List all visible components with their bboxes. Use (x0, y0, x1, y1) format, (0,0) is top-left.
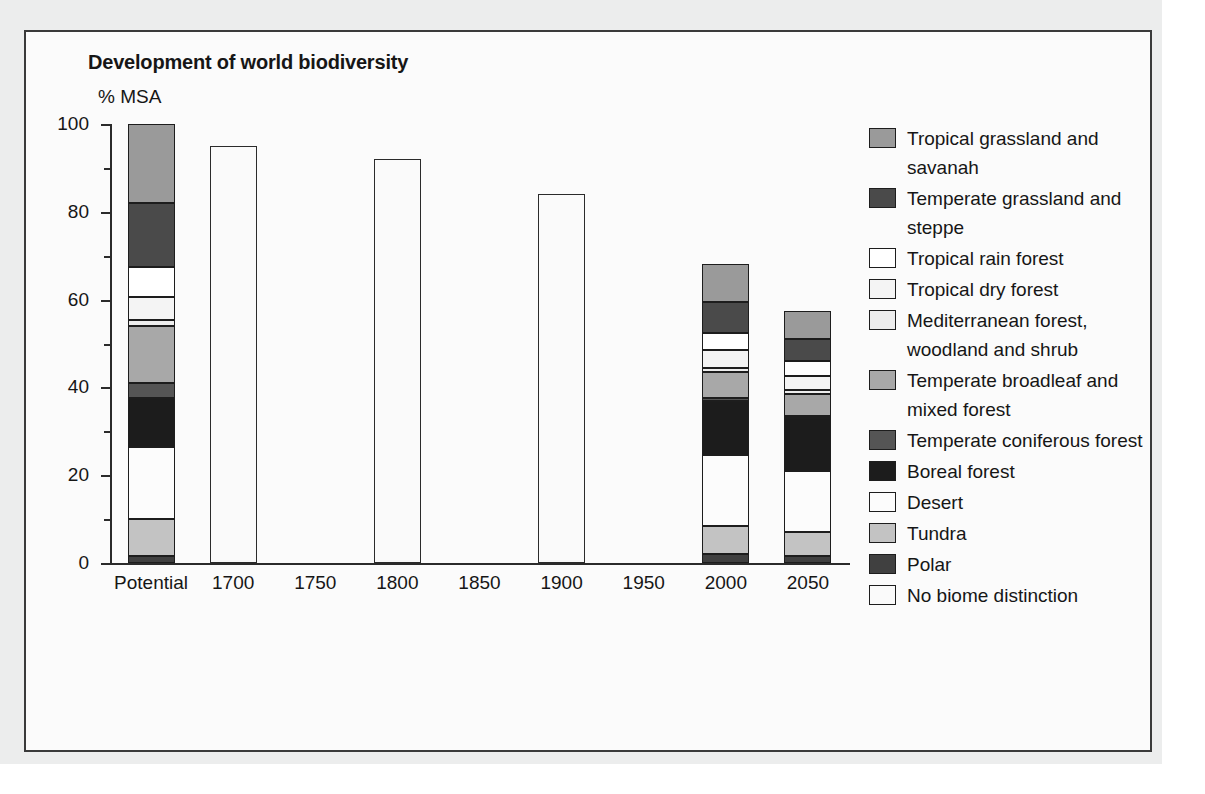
bar-segment (702, 455, 749, 525)
legend-label: Desert (907, 488, 963, 517)
bar-segment (128, 320, 175, 326)
bar-segment (128, 556, 175, 563)
bar-segment (784, 394, 831, 416)
bar-1800 (374, 159, 421, 563)
legend-label: Boreal forest (907, 457, 1015, 486)
y-tick-label: 60 (68, 289, 89, 311)
bar-segment (702, 333, 749, 351)
legend-swatch-icon (869, 492, 896, 512)
bar-1700 (210, 146, 257, 563)
bar-segment (702, 401, 749, 456)
bar-segment (128, 326, 175, 383)
legend-item: Mediterranean forest, woodland and shrub (869, 306, 1169, 364)
bar-segment (784, 556, 831, 563)
bar-segment (128, 398, 175, 446)
y-tick-minor (104, 256, 110, 258)
bar-segment (128, 447, 175, 519)
legend-item: No biome distinction (869, 581, 1169, 610)
legend-item: Boreal forest (869, 457, 1169, 486)
x-tick-label: 1850 (458, 572, 500, 594)
bar-segment (128, 383, 175, 398)
bar-2050 (784, 311, 831, 563)
legend-swatch-icon (869, 554, 896, 574)
bar-segment (128, 297, 175, 320)
legend-label: Tropical rain forest (907, 244, 1064, 273)
y-tick-label: 80 (68, 201, 89, 223)
legend-item: Tropical grassland and savanah (869, 124, 1169, 182)
legend-swatch-icon (869, 523, 896, 543)
y-axis-title: % MSA (98, 86, 161, 108)
x-tick-label: 2050 (787, 572, 829, 594)
bar-segment (128, 124, 175, 203)
chart-title: Development of world biodiversity (88, 51, 408, 74)
bar-segment (702, 398, 749, 400)
y-tick-label: 20 (68, 464, 89, 486)
bar-segment (538, 194, 585, 563)
chart-figure: Development of world biodiversity % MSA … (0, 0, 1205, 794)
legend-item: Tundra (869, 519, 1169, 548)
legend-swatch-icon (869, 585, 896, 605)
plot-area: 020406080100 (110, 124, 849, 563)
x-tick-label: Potential (114, 572, 188, 594)
legend-label: Temperate grassland and steppe (907, 184, 1169, 242)
y-tick-major: 40 (101, 387, 110, 389)
y-tick-major: 80 (101, 212, 110, 214)
y-tick-major: 20 (101, 475, 110, 477)
y-tick-label: 40 (68, 376, 89, 398)
bar-segment (784, 311, 831, 340)
bar-segment (128, 519, 175, 556)
y-tick-minor (104, 431, 110, 433)
legend-item: Tropical rain forest (869, 244, 1169, 273)
bar-segment (784, 532, 831, 556)
y-tick-major: 100 (101, 124, 110, 126)
bar-segment (784, 390, 831, 394)
legend-item: Tropical dry forest (869, 275, 1169, 304)
bar-segment (784, 471, 831, 532)
x-tick-label: 2000 (705, 572, 747, 594)
x-tick-label: 1900 (540, 572, 582, 594)
chart-legend: Tropical grassland and savanahTemperate … (869, 124, 1169, 612)
legend-swatch-icon (869, 128, 896, 148)
bar-segment (702, 372, 749, 398)
legend-label: Mediterranean forest, woodland and shrub (907, 306, 1169, 364)
legend-swatch-icon (869, 188, 896, 208)
legend-swatch-icon (869, 370, 896, 390)
legend-item: Temperate broadleaf and mixed forest (869, 366, 1169, 424)
x-tick-label: 1950 (623, 572, 665, 594)
legend-swatch-icon (869, 430, 896, 450)
bar-1900 (538, 194, 585, 563)
y-tick-minor (104, 519, 110, 521)
bar-segment (784, 416, 831, 418)
x-tick-label: 1800 (376, 572, 418, 594)
bar-segment (128, 203, 175, 267)
x-axis-line (110, 563, 850, 565)
y-tick-minor (104, 168, 110, 170)
legend-swatch-icon (869, 310, 896, 330)
bar-segment (702, 350, 749, 368)
y-tick-major: 0 (101, 563, 110, 565)
bar-potential (128, 124, 175, 563)
legend-swatch-icon (869, 248, 896, 268)
legend-item: Temperate grassland and steppe (869, 184, 1169, 242)
bar-segment (702, 554, 749, 563)
legend-label: Tropical grassland and savanah (907, 124, 1169, 182)
legend-label: No biome distinction (907, 581, 1078, 610)
legend-item: Polar (869, 550, 1169, 579)
bar-segment (784, 339, 831, 361)
bar-segment (128, 267, 175, 297)
bar-segment (702, 526, 749, 555)
legend-label: Tundra (907, 519, 967, 548)
legend-swatch-icon (869, 461, 896, 481)
bar-segment (702, 264, 749, 301)
y-tick-minor (104, 344, 110, 346)
legend-swatch-icon (869, 279, 896, 299)
bar-segment (784, 376, 831, 389)
bar-segment (374, 159, 421, 563)
bar-segment (702, 302, 749, 333)
y-tick-label: 100 (57, 113, 89, 135)
y-tick-major: 60 (101, 300, 110, 302)
bar-segment (702, 368, 749, 372)
legend-label: Polar (907, 550, 951, 579)
bar-segment (210, 146, 257, 563)
legend-item: Temperate coniferous forest (869, 426, 1169, 455)
